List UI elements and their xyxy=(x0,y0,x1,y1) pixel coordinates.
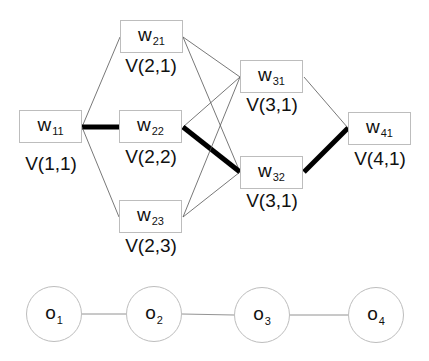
state-node-w11: w11 xyxy=(19,110,82,143)
observation-node-o2: o2 xyxy=(126,286,182,342)
observation-name: o1 xyxy=(45,303,63,322)
state-value-label: V(2,1) xyxy=(106,56,196,75)
trellis-diagram: w11 V(1,1) w21 V(2,1) w22 V(2,2) w23 V(2… xyxy=(0,0,429,361)
observation-name: o4 xyxy=(367,304,385,323)
state-value-label: V(2,2) xyxy=(106,147,196,166)
state-name: w31 xyxy=(258,65,285,84)
state-node-w31: w31 xyxy=(240,60,303,93)
state-value-label: V(1,1) xyxy=(6,154,96,173)
observation-name: o3 xyxy=(253,304,271,323)
state-name: w11 xyxy=(37,115,63,134)
state-value-label: V(3,1) xyxy=(227,191,317,210)
edge-o2-o3 xyxy=(182,314,234,315)
state-node-w22: w22 xyxy=(119,110,182,143)
state-node-w32: w32 xyxy=(240,156,303,189)
observation-node-o3: o3 xyxy=(234,287,290,343)
observation-name: o2 xyxy=(145,303,163,322)
state-name: w32 xyxy=(258,161,285,180)
edge-w11-w21 xyxy=(82,37,120,127)
state-name: w23 xyxy=(137,205,164,224)
state-name: w21 xyxy=(138,25,165,44)
state-node-w23: w23 xyxy=(119,200,182,233)
state-value-label: V(2,3) xyxy=(106,236,196,255)
state-value-label: V(3,1) xyxy=(227,95,317,114)
observation-node-o1: o1 xyxy=(26,286,82,342)
state-name: w22 xyxy=(137,115,164,134)
state-node-w41: w41 xyxy=(348,112,411,145)
state-name: w41 xyxy=(366,117,393,136)
observation-node-o4: o4 xyxy=(348,287,404,343)
state-value-label: V(4,1) xyxy=(335,149,425,168)
state-node-w21: w21 xyxy=(120,20,183,53)
